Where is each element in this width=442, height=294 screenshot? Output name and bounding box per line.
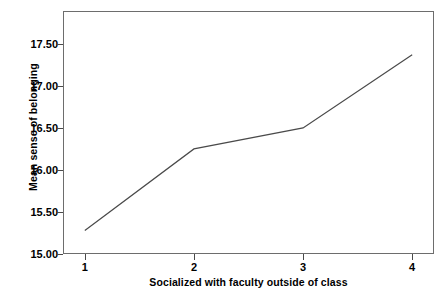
x-tick-label: 3 <box>288 261 318 273</box>
y-tick-label: 15.50 <box>4 206 58 218</box>
y-tick-mark <box>57 44 63 45</box>
x-tick-mark <box>194 254 195 260</box>
x-tick-label: 2 <box>179 261 209 273</box>
y-tick-mark <box>57 254 63 255</box>
y-tick-mark <box>57 170 63 171</box>
data-line-series <box>63 11 434 254</box>
y-tick-mark <box>57 212 63 213</box>
y-tick-label: 15.00 <box>4 248 58 260</box>
x-tick-label: 1 <box>70 261 100 273</box>
x-axis-title: Socialized with faculty outside of class <box>63 276 434 288</box>
line-chart: Mean sense of belonging 15.0015.5016.001… <box>0 0 442 294</box>
y-tick-mark <box>57 86 63 87</box>
y-tick-label: 17.00 <box>4 80 58 92</box>
y-tick-mark <box>57 128 63 129</box>
x-tick-label: 4 <box>397 261 427 273</box>
y-tick-label: 16.00 <box>4 164 58 176</box>
x-tick-mark <box>412 254 413 260</box>
y-axis-tick-labels: 15.0015.5016.0016.5017.0017.50 <box>0 0 58 294</box>
x-tick-mark <box>303 254 304 260</box>
y-tick-label: 16.50 <box>4 122 58 134</box>
y-tick-label: 17.50 <box>4 38 58 50</box>
x-tick-mark <box>85 254 86 260</box>
